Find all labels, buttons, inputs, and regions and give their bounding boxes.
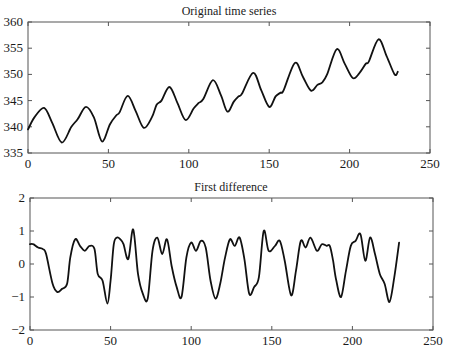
y-tick-label: −2 bbox=[11, 322, 25, 337]
y-tick-label: 335 bbox=[4, 145, 24, 160]
y-tick-label: 355 bbox=[4, 40, 24, 55]
chart-title-original: Original time series bbox=[182, 4, 277, 18]
first-difference-series-line bbox=[30, 229, 399, 303]
figure: Original time series 0501001502002503353… bbox=[0, 0, 450, 354]
first-difference-panel: First difference 050100150200250−2−1012 bbox=[11, 180, 443, 348]
y-tick-label: −1 bbox=[11, 289, 25, 304]
y-tick-label: 0 bbox=[19, 256, 26, 271]
original-series-line bbox=[28, 39, 398, 142]
bottom-axes-frame bbox=[30, 198, 433, 330]
original-time-series-panel: Original time series 0501001502002503353… bbox=[4, 4, 440, 171]
y-tick-label: 350 bbox=[4, 66, 24, 81]
x-tick-label: 250 bbox=[423, 333, 443, 348]
x-tick-label: 250 bbox=[420, 156, 440, 171]
x-tick-label: 200 bbox=[340, 156, 360, 171]
y-tick-label: 2 bbox=[19, 190, 26, 205]
x-tick-label: 150 bbox=[259, 156, 279, 171]
x-tick-label: 150 bbox=[262, 333, 282, 348]
x-tick-label: 200 bbox=[343, 333, 363, 348]
top-axis-ticks: 050100150200250335340345350355360 bbox=[4, 14, 440, 171]
x-tick-label: 100 bbox=[179, 156, 199, 171]
x-tick-label: 100 bbox=[181, 333, 201, 348]
y-tick-label: 1 bbox=[19, 223, 26, 238]
x-tick-label: 50 bbox=[104, 333, 117, 348]
top-axes-frame bbox=[28, 22, 430, 153]
y-tick-label: 360 bbox=[4, 14, 24, 29]
x-tick-label: 0 bbox=[25, 156, 32, 171]
x-tick-label: 0 bbox=[27, 333, 34, 348]
y-tick-label: 340 bbox=[4, 119, 24, 134]
y-tick-label: 345 bbox=[4, 93, 24, 108]
x-tick-label: 50 bbox=[102, 156, 115, 171]
chart-title-first-difference: First difference bbox=[194, 180, 267, 194]
